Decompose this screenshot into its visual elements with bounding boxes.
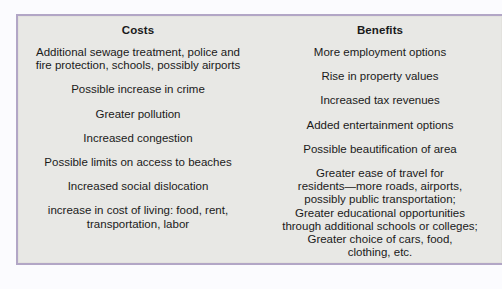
costs-item-7: increase in cost of living: food, rent, … <box>30 204 246 230</box>
benefits-item-1: More employment options <box>276 46 484 59</box>
column-heading-benefits: Benefits <box>276 24 484 37</box>
column-benefits: Benefits More employment options Rise in… <box>260 24 502 263</box>
costs-item-2: Possible increase in crime <box>30 83 246 96</box>
column-costs: Costs Additional sewage treatment, polic… <box>18 24 260 263</box>
table-columns: Costs Additional sewage treatment, polic… <box>18 16 502 263</box>
column-heading-costs: Costs <box>30 24 246 37</box>
costs-item-1: Additional sewage treatment, police and … <box>30 46 246 72</box>
benefits-item-3: Increased tax revenues <box>276 94 484 107</box>
costs-benefits-table: Costs Additional sewage treatment, polic… <box>16 14 502 265</box>
costs-item-5: Possible limits on access to beaches <box>30 156 246 169</box>
costs-item-6: Increased social dislocation <box>30 180 246 193</box>
costs-item-3: Greater pollution <box>30 108 246 121</box>
benefits-item-6: Greater ease of travel for residents—mor… <box>276 167 484 259</box>
benefits-item-4: Added entertainment options <box>276 119 484 132</box>
benefits-item-5: Possible beautification of area <box>276 143 484 156</box>
benefits-item-2: Rise in property values <box>276 70 484 83</box>
costs-item-4: Increased congestion <box>30 132 246 145</box>
